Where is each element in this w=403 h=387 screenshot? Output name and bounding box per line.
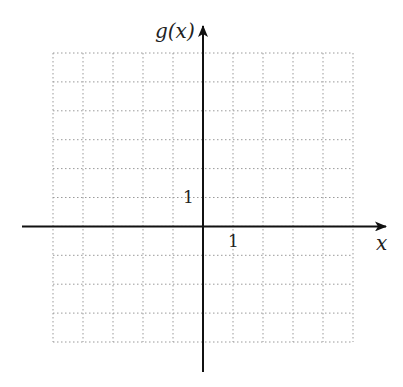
x-axis-label: x	[376, 231, 387, 255]
coordinate-plane: x g(x) 1 1	[0, 0, 403, 387]
x-tick-label: 1	[228, 231, 239, 251]
y-axis-label: g(x)	[155, 19, 195, 43]
y-tick-label: 1	[183, 187, 194, 207]
